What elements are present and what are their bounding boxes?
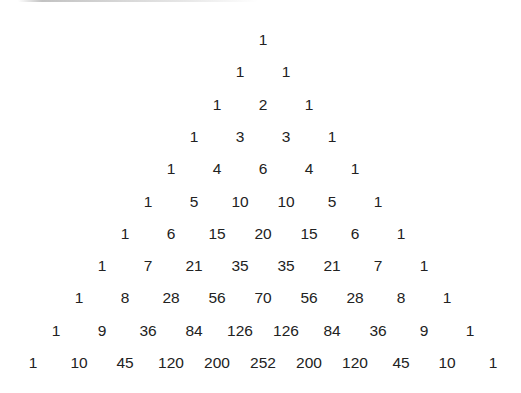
triangle-cell: 200 (296, 355, 322, 371)
triangle-cell: 1 (190, 129, 199, 145)
triangle-cell: 45 (392, 355, 409, 371)
triangle-cell: 126 (227, 323, 253, 339)
pascals-triangle: 1111211331146411510105116152015611721353… (0, 0, 521, 393)
triangle-cell: 21 (323, 258, 340, 274)
triangle-cell: 1 (305, 97, 314, 113)
triangle-cell: 84 (323, 323, 340, 339)
triangle-cell: 5 (190, 194, 199, 210)
triangle-cell: 7 (144, 258, 153, 274)
triangle-cell: 4 (305, 161, 314, 177)
triangle-cell: 1 (259, 32, 268, 48)
triangle-cell: 35 (231, 258, 248, 274)
triangle-cell: 120 (158, 355, 184, 371)
triangle-cell: 9 (98, 323, 107, 339)
triangle-cell: 4 (213, 161, 222, 177)
triangle-cell: 1 (466, 323, 475, 339)
triangle-cell: 1 (213, 97, 222, 113)
triangle-cell: 1 (374, 194, 383, 210)
triangle-cell: 20 (254, 226, 271, 242)
triangle-cell: 10 (277, 194, 294, 210)
triangle-cell: 1 (75, 291, 84, 307)
triangle-cell: 10 (438, 355, 455, 371)
triangle-cell: 3 (282, 129, 291, 145)
triangle-cell: 200 (204, 355, 230, 371)
triangle-cell: 6 (167, 226, 176, 242)
triangle-cell: 70 (254, 291, 271, 307)
triangle-cell: 1 (351, 161, 360, 177)
triangle-cell: 6 (259, 161, 268, 177)
triangle-cell: 15 (208, 226, 225, 242)
triangle-cell: 36 (139, 323, 156, 339)
triangle-cell: 28 (162, 291, 179, 307)
triangle-cell: 5 (328, 194, 337, 210)
triangle-cell: 252 (250, 355, 276, 371)
triangle-cell: 1 (420, 258, 429, 274)
triangle-cell: 36 (369, 323, 386, 339)
triangle-cell: 1 (282, 65, 291, 81)
triangle-cell: 9 (420, 323, 429, 339)
triangle-cell: 35 (277, 258, 294, 274)
triangle-cell: 2 (259, 97, 268, 113)
triangle-cell: 1 (328, 129, 337, 145)
triangle-cell: 3 (236, 129, 245, 145)
triangle-cell: 21 (185, 258, 202, 274)
triangle-cell: 1 (443, 291, 452, 307)
triangle-cell: 15 (300, 226, 317, 242)
triangle-cell: 8 (121, 291, 130, 307)
triangle-cell: 56 (208, 291, 225, 307)
triangle-cell: 126 (273, 323, 299, 339)
triangle-cell: 1 (52, 323, 61, 339)
triangle-cell: 1 (29, 355, 38, 371)
triangle-cell: 1 (144, 194, 153, 210)
triangle-cell: 45 (116, 355, 133, 371)
triangle-cell: 1 (397, 226, 406, 242)
triangle-cell: 56 (300, 291, 317, 307)
triangle-cell: 6 (351, 226, 360, 242)
triangle-cell: 1 (121, 226, 130, 242)
triangle-cell: 10 (70, 355, 87, 371)
triangle-cell: 8 (397, 291, 406, 307)
triangle-cell: 84 (185, 323, 202, 339)
triangle-cell: 28 (346, 291, 363, 307)
triangle-cell: 10 (231, 194, 248, 210)
triangle-cell: 1 (489, 355, 498, 371)
triangle-cell: 7 (374, 258, 383, 274)
triangle-cell: 1 (236, 65, 245, 81)
triangle-cell: 1 (167, 161, 176, 177)
triangle-cell: 120 (342, 355, 368, 371)
triangle-cell: 1 (98, 258, 107, 274)
